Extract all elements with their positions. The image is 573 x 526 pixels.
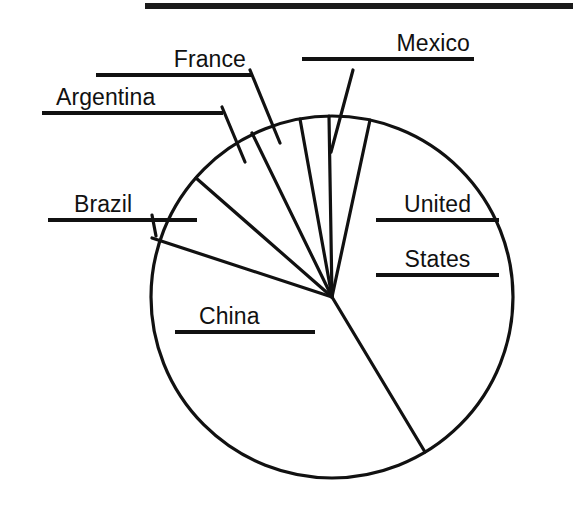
slice-divider-us-china (332, 297, 425, 452)
slice-label-united-states-line2-text: States (376, 246, 499, 272)
slice-label-argentina-underline (42, 111, 223, 115)
slice-label-united-states-line2-underline (376, 273, 499, 277)
slice-label-france-text: France (96, 46, 252, 72)
figure-canvas: Mexico France Argentina Brazil China Uni… (0, 0, 573, 526)
slice-divider-argentina-brazil (252, 133, 332, 297)
slice-label-china-underline (175, 330, 315, 334)
slice-label-china-text: China (175, 303, 315, 329)
slice-label-united-states-line1-underline (376, 218, 499, 222)
slice-label-france: France (96, 46, 252, 77)
slice-label-china: China (175, 303, 315, 334)
slice-label-france-underline (96, 73, 252, 77)
slice-label-argentina: Argentina (42, 84, 223, 115)
slice-label-mexico: Mexico (302, 30, 474, 61)
slice-label-united-states-line1: United (376, 191, 499, 222)
slice-label-united-states-line1-text: United (376, 191, 499, 217)
slice-divider-china-brazil-lower (152, 238, 332, 297)
slice-label-united-states-line2: States (376, 246, 499, 277)
slice-divider-france-argentina (300, 119, 332, 297)
slice-label-brazil-underline (48, 218, 197, 222)
slice-label-argentina-text: Argentina (42, 84, 223, 110)
slice-divider-us-mexico (332, 120, 370, 297)
slice-divider-brazil-china (196, 178, 332, 297)
leader-line-mexico (331, 70, 353, 152)
slice-label-brazil: Brazil (48, 191, 197, 222)
slice-label-brazil-text: Brazil (48, 191, 197, 217)
slice-divider-mexico-france (329, 116, 332, 297)
leader-line-argentina (222, 107, 245, 162)
slice-label-mexico-text: Mexico (302, 30, 474, 56)
slice-label-mexico-underline (302, 57, 474, 61)
